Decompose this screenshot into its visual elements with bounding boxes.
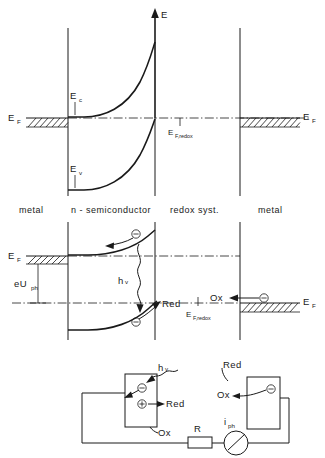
svg-text:E: E <box>186 310 192 319</box>
label-photon: h v <box>118 275 129 286</box>
region-label-semiconductor: n - semiconductor <box>71 205 151 215</box>
svg-text:F: F <box>312 302 316 309</box>
svg-text:E: E <box>168 128 174 137</box>
photoelectrode-box[interactable] <box>125 374 157 427</box>
svg-text:i: i <box>224 416 227 427</box>
conduction-band-edge <box>68 42 155 117</box>
label-fermi-right: E F <box>303 111 316 124</box>
svg-text:eU: eU <box>14 278 27 289</box>
label-fermi-left: E F <box>8 112 21 125</box>
label-red-right: Red <box>222 359 242 381</box>
carrier-electron-conduction[interactable] <box>132 230 140 238</box>
label-conduction-band: E c <box>70 90 82 115</box>
resistor-symbol[interactable] <box>188 437 212 448</box>
region-label-metal-right: metal <box>258 205 283 215</box>
svg-text:ph: ph <box>228 422 235 429</box>
panel-circuit: R i ph h v <box>82 359 289 455</box>
carrier-photoelectrode-electron[interactable] <box>138 384 146 392</box>
valence-band-edge-2 <box>68 301 157 330</box>
label-fermi-right-2: E F <box>303 296 316 309</box>
ammeter-symbol[interactable] <box>224 431 248 455</box>
svg-text:E: E <box>303 296 310 307</box>
label-ox-middle: Ox <box>210 292 223 303</box>
metal-left-fermi-sea <box>26 118 68 127</box>
svg-text:F: F <box>17 118 21 125</box>
counter-electrode-box[interactable] <box>247 377 280 429</box>
label-red-left: Red <box>148 398 185 409</box>
label-red-middle: Red <box>162 298 181 309</box>
svg-text:E: E <box>8 250 15 261</box>
label-resistor: R <box>194 423 201 434</box>
svg-text:E: E <box>70 163 77 174</box>
svg-text:F,redox: F,redox <box>175 133 193 139</box>
photovoltage-bracket: eU ph <box>14 264 46 303</box>
conduction-band-edge-2 <box>68 230 155 255</box>
metal-left-fermi-sea-2 <box>26 256 68 264</box>
metal-right-fermi-sea-2 <box>240 303 300 312</box>
svg-text:v: v <box>79 169 83 176</box>
region-labels: metal n - semiconductor redox syst. meta… <box>19 205 283 215</box>
red-transfer-arrow <box>139 301 161 319</box>
panel-equilibrium: E E F <box>8 8 316 196</box>
svg-text:E: E <box>70 90 77 101</box>
carrier-photoelectrode-hole[interactable] <box>138 400 146 408</box>
carrier-counter-electrode-electron[interactable] <box>267 385 275 393</box>
svg-text:E: E <box>303 111 310 122</box>
svg-text:h: h <box>118 275 124 286</box>
label-photon-circuit: h v <box>158 362 169 373</box>
label-ox-right: Ox <box>217 389 266 400</box>
svg-text:Ox: Ox <box>158 427 171 438</box>
svg-text:ph: ph <box>31 284 38 291</box>
label-fermi-redox-middle: E F,redox <box>186 297 211 321</box>
region-label-metal-left: metal <box>19 205 44 215</box>
carrier-electron-metal[interactable] <box>260 294 268 302</box>
svg-text:v: v <box>125 278 129 285</box>
label-ox-left: Ox <box>150 427 171 438</box>
region-label-redox: redox syst. <box>170 205 219 215</box>
carrier-electron-valence[interactable] <box>132 318 140 326</box>
valence-band-edge <box>68 119 155 190</box>
label-valence-band: E v <box>70 163 83 188</box>
label-fermi-left-2: E F <box>8 250 21 263</box>
svg-text:F: F <box>17 256 21 263</box>
svg-text:F: F <box>312 117 316 124</box>
energy-axis-label: E <box>161 9 168 20</box>
ox-transfer-arrow <box>229 295 259 302</box>
svg-text:Red: Red <box>223 359 242 370</box>
panel-illuminated: E F eU ph <box>8 222 316 340</box>
svg-text:Ox: Ox <box>217 389 230 400</box>
photoelectrode-electron-arrow <box>124 390 139 398</box>
metal-right-fermi-sea <box>240 118 300 127</box>
svg-text:E: E <box>8 112 15 123</box>
svg-text:Red: Red <box>166 398 185 409</box>
figure-root: E E F <box>0 0 325 458</box>
energy-axis: E <box>151 8 168 118</box>
svg-text:h: h <box>158 362 164 373</box>
svg-text:c: c <box>79 96 82 103</box>
energy-axis-arrowhead <box>151 8 159 18</box>
circuit-wiring <box>82 393 289 443</box>
label-fermi-redox-top: E F,redox <box>168 118 193 139</box>
band-diagram-svg: E E F <box>0 0 325 458</box>
svg-text:F,redox: F,redox <box>193 315 211 321</box>
label-photocurrent: i ph <box>224 416 235 429</box>
